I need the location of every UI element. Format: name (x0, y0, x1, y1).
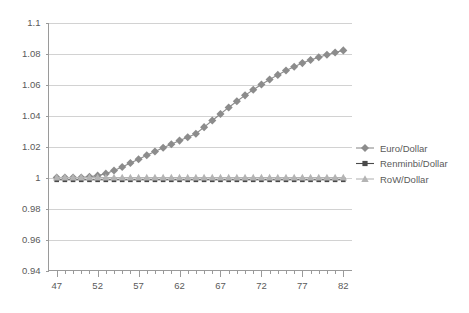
data-series (53, 46, 348, 182)
x-axis-tick-label: 82 (338, 280, 349, 291)
data-point-marker (323, 51, 331, 59)
data-point-marker (135, 155, 143, 163)
data-point-marker (249, 86, 257, 94)
data-point-marker (290, 63, 298, 71)
data-point-marker (126, 159, 134, 167)
gridlines (49, 24, 352, 241)
data-point-marker (159, 144, 167, 152)
y-axis-tick-label: 1.02 (22, 141, 41, 152)
legend-label: Euro/Dollar (380, 143, 428, 154)
data-point-marker (266, 76, 274, 84)
chart-plot: 0.940.960.9811.021.041.061.081.1 4752576… (0, 0, 469, 313)
chart-legend: Euro/DollarRenminbi/DollarRoW/Dollar (356, 143, 448, 185)
legend-label: Renminbi/Dollar (380, 158, 448, 169)
y-axis-tick-label: 1.06 (22, 79, 41, 90)
x-axis-tick-label: 67 (215, 280, 226, 291)
y-axis-tick-labels: 0.940.960.9811.021.041.061.081.1 (22, 17, 41, 276)
y-axis-tick-label: 0.98 (22, 203, 41, 214)
data-point-marker (298, 59, 306, 67)
y-axis-tick-label: 1.1 (27, 17, 40, 28)
y-axis-tick-label: 1.08 (22, 48, 41, 59)
legend-item-row-dollar: RoW/Dollar (356, 174, 429, 185)
data-point-marker (118, 163, 126, 171)
data-point-marker (241, 91, 249, 99)
legend-marker-diamond-icon (361, 144, 369, 152)
x-axis-tick-label: 72 (256, 280, 267, 291)
data-point-marker (110, 166, 118, 174)
data-point-marker (184, 133, 192, 141)
y-axis-tick-label: 0.94 (22, 265, 41, 276)
series-line (57, 50, 344, 177)
chart-container: 0.940.960.9811.021.041.061.081.1 4752576… (0, 0, 469, 313)
x-axis-tick-label: 52 (92, 280, 103, 291)
y-axis-tick-label: 1.04 (22, 110, 41, 121)
legend-item-euro-dollar: Euro/Dollar (356, 143, 428, 154)
data-point-marker (274, 71, 282, 79)
data-point-marker (167, 140, 175, 148)
data-point-marker (331, 48, 339, 56)
legend-marker-square-icon (362, 161, 367, 166)
data-point-marker (339, 46, 347, 54)
x-axis-tick-label: 57 (133, 280, 144, 291)
data-point-marker (307, 56, 315, 64)
y-axis-tick-label: 0.96 (22, 234, 41, 245)
data-point-marker (282, 67, 290, 75)
data-point-marker (143, 151, 151, 159)
x-axis-ticks (58, 271, 344, 277)
x-axis-tick-label: 62 (174, 280, 185, 291)
legend-label: RoW/Dollar (380, 174, 429, 185)
legend-item-renminbi-dollar: Renminbi/Dollar (356, 158, 448, 169)
x-axis-tick-label: 47 (51, 280, 62, 291)
y-axis-tick-label: 1 (35, 172, 40, 183)
data-point-marker (175, 137, 183, 145)
series-euro-dollar (53, 46, 348, 181)
data-point-marker (151, 147, 159, 155)
data-point-marker (257, 80, 265, 88)
x-axis-tick-label: 77 (297, 280, 308, 291)
x-axis-tick-labels: 4752576267727782 (51, 280, 348, 291)
